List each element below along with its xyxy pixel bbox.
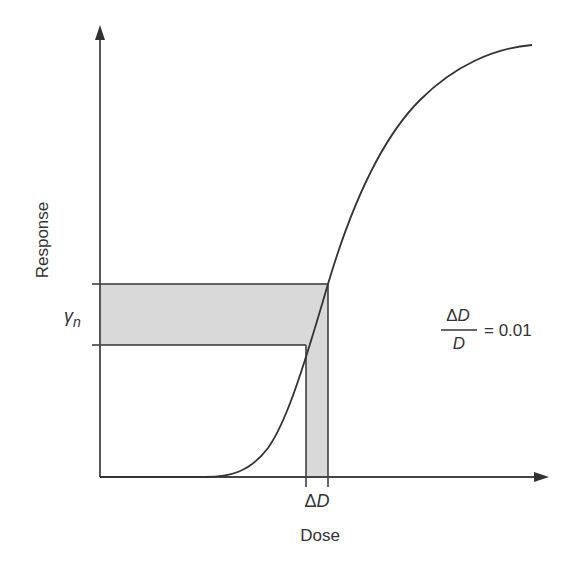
equation: ΔD D = 0.01 — [441, 306, 532, 353]
response-band-shade — [100, 284, 328, 345]
equation-numerator: ΔD — [446, 306, 470, 325]
gamma-n-label: γn — [64, 306, 81, 330]
equation-denominator: D — [453, 334, 465, 353]
equation-rhs: = 0.01 — [484, 321, 532, 340]
dose-band-shade — [306, 345, 328, 477]
delta-d-label: ΔD — [304, 491, 329, 511]
x-axis-arrow-icon — [534, 472, 549, 482]
dose-response-diagram: Response γn ΔD Dose ΔD D = 0.01 — [0, 0, 574, 569]
y-axis-arrow-icon — [95, 25, 105, 40]
y-axis-label: Response — [33, 202, 52, 279]
x-axis-label: Dose — [300, 526, 340, 545]
